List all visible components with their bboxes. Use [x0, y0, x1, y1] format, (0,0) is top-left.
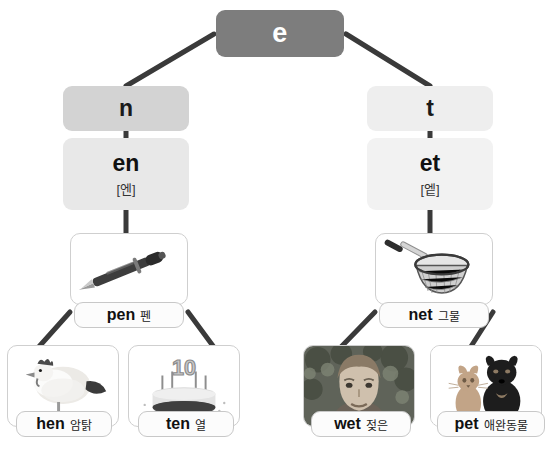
word-label-ten-english: ten: [166, 415, 190, 433]
root-letter-text: e: [272, 18, 288, 49]
word-label-net-english: net: [409, 306, 433, 324]
rime-chip-et[interactable]: et [엩]: [367, 138, 493, 210]
word-label-pet[interactable]: pet 애완동물: [437, 411, 545, 437]
phonics-diagram: e n en [엔] pen 펜: [0, 0, 554, 459]
letter-chip-t[interactable]: t: [367, 86, 493, 131]
word-label-wet[interactable]: wet 젖은: [311, 411, 411, 437]
rime-chip-en[interactable]: en [엔]: [63, 138, 189, 210]
word-label-pen[interactable]: pen 펜: [74, 302, 184, 328]
word-label-hen-english: hen: [36, 415, 64, 433]
rime-chip-et-phonetic: [엩]: [420, 179, 439, 198]
rime-chip-en-text: en: [113, 150, 140, 177]
word-label-ten-korean: 열: [195, 416, 206, 433]
word-label-pen-english: pen: [107, 306, 135, 324]
word-label-wet-english: wet: [334, 415, 361, 433]
svg-text:10: 10: [172, 355, 196, 380]
word-card-pen[interactable]: [70, 233, 188, 305]
word-label-pet-korean: 애완동물: [484, 416, 528, 433]
word-label-net[interactable]: net 그물: [379, 302, 489, 328]
word-label-wet-korean: 젖은: [366, 416, 388, 433]
letter-chip-n-text: n: [119, 95, 133, 122]
word-label-ten[interactable]: ten 열: [138, 411, 234, 437]
pen-illustration: [71, 234, 187, 305]
letter-chip-n[interactable]: n: [63, 86, 189, 131]
root-letter-chip[interactable]: e: [216, 10, 344, 57]
word-label-pet-english: pet: [455, 415, 479, 433]
word-label-net-korean: 그물: [438, 307, 460, 324]
rime-chip-en-phonetic: [엔]: [116, 179, 135, 198]
net-illustration: [376, 234, 492, 305]
rime-chip-et-text: et: [420, 150, 440, 177]
word-label-hen[interactable]: hen 암탉: [16, 411, 112, 437]
word-label-hen-korean: 암탉: [70, 416, 92, 433]
word-card-net[interactable]: [375, 233, 493, 305]
word-label-pen-korean: 펜: [140, 307, 151, 324]
letter-chip-t-text: t: [426, 95, 434, 122]
